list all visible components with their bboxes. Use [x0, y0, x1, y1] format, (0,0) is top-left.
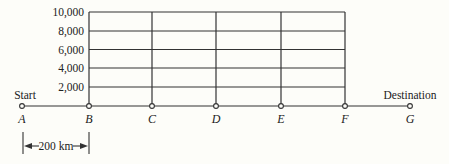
point-c-marker [150, 104, 155, 109]
scale-label: 200 km [39, 140, 74, 152]
start-label: Start [14, 89, 37, 101]
point-f-marker [343, 104, 348, 109]
y-tick-10000: 10,000 [52, 6, 84, 19]
y-tick-6000: 6,000 [58, 44, 84, 57]
scale-arrow-left-icon [24, 143, 32, 149]
point-d-label: D [211, 112, 221, 126]
point-labels: A B C D E F G [17, 112, 414, 126]
point-g-label: G [406, 112, 415, 126]
y-tick-8000: 8,000 [58, 25, 84, 38]
point-c-label: C [148, 112, 157, 126]
y-tick-4000: 4,000 [58, 62, 84, 75]
y-tick-2000: 2,000 [58, 81, 84, 94]
point-d-marker [214, 104, 219, 109]
grid-vertical-lines [89, 12, 345, 106]
y-axis-labels: 10,000 8,000 6,000 4,000 2,000 [52, 6, 84, 94]
scale-arrow-right-icon [80, 143, 88, 149]
grid-horizontal-lines [89, 12, 345, 87]
point-b-label: B [85, 112, 93, 126]
point-a-marker [20, 104, 25, 109]
point-b-marker [87, 104, 92, 109]
point-f-label: F [340, 112, 349, 126]
point-a-label: A [17, 112, 26, 126]
point-g-marker [408, 104, 413, 109]
point-e-label: E [276, 112, 285, 126]
point-e-marker [279, 104, 284, 109]
destination-label: Destination [383, 89, 436, 101]
route-altitude-diagram: 10,000 8,000 6,000 4,000 2,000 A B C D E… [0, 0, 449, 164]
